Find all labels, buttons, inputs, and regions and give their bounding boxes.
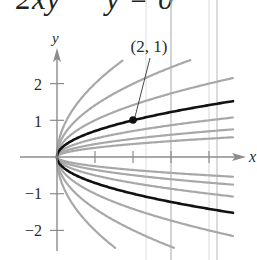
point-label: (2, 1)	[131, 37, 168, 56]
y-tick-label-neg1: −1	[25, 185, 42, 202]
y-tick-label-2: 2	[34, 76, 42, 93]
y-tick-label-1: 1	[34, 113, 42, 130]
x-axis-label: x	[248, 148, 256, 165]
leader-line	[135, 58, 150, 117]
y-axis-label: y	[50, 30, 59, 46]
y-tick-label-neg2: −2	[25, 222, 42, 239]
solution-curve-family	[57, 60, 233, 248]
solution-curves-plot: x y 2 1 −1 −2 (2, 1)	[0, 0, 257, 260]
point-annotation: (2, 1)	[129, 37, 167, 124]
axes	[20, 48, 246, 251]
slope-field-figure: 2xy′ − y = 0 x y 2 1 −1 −2 (2, 1)	[0, 0, 257, 260]
point-marker	[129, 116, 137, 124]
